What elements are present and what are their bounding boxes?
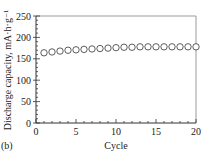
- data-point-marker: [65, 47, 71, 53]
- data-point-marker: [145, 44, 151, 50]
- y-tick-label: 250: [16, 11, 31, 22]
- x-tick-label: 20: [191, 126, 201, 137]
- panel-label: (b): [1, 140, 13, 152]
- data-point-marker: [137, 44, 143, 50]
- data-point-marker: [105, 45, 111, 51]
- data-point-marker: [49, 49, 55, 55]
- x-tick-label: 5: [74, 126, 79, 137]
- data-point-marker: [193, 44, 199, 50]
- data-point-marker: [177, 44, 183, 50]
- data-point-marker: [73, 47, 79, 53]
- data-point-marker: [169, 44, 175, 50]
- data-point-marker: [161, 44, 167, 50]
- data-point-marker: [97, 45, 103, 51]
- data-point-marker: [89, 46, 95, 52]
- data-point-marker: [129, 44, 135, 50]
- y-tick-label: 150: [16, 53, 31, 64]
- y-axis-title: Discharge capacity, mA·h·g⁻¹: [2, 10, 13, 130]
- data-point-marker: [113, 44, 119, 50]
- y-tick-label: 100: [16, 75, 31, 86]
- x-tick-label: 10: [111, 126, 121, 137]
- data-point-marker: [121, 44, 127, 50]
- y-tick-label: 50: [21, 96, 31, 107]
- data-point-marker: [185, 44, 191, 50]
- data-point-marker: [41, 50, 47, 56]
- discharge-capacity-chart: 050100150200250 05101520 Discharge capac…: [0, 0, 203, 153]
- plot-frame: [36, 16, 196, 123]
- x-tick-label: 0: [34, 126, 39, 137]
- x-tick-label: 15: [151, 126, 161, 137]
- y-tick-label: 200: [16, 32, 31, 43]
- data-point-marker: [153, 44, 159, 50]
- data-points: [41, 44, 199, 56]
- data-point-marker: [57, 48, 63, 54]
- x-axis-ticks: 05101520: [34, 119, 202, 137]
- y-tick-label: 0: [26, 118, 31, 129]
- x-axis-title: Cycle: [104, 140, 128, 151]
- data-point-marker: [81, 46, 87, 52]
